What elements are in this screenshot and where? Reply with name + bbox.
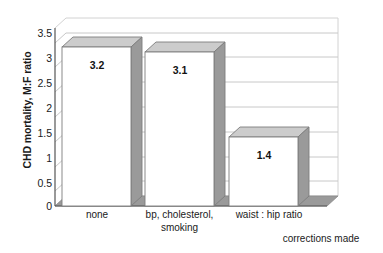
x-axis-title: corrections made bbox=[262, 233, 380, 244]
bar-value-label: 1.4 bbox=[244, 149, 284, 161]
x-category-label-none: none bbox=[57, 209, 137, 222]
x-category-label-bp: bp, cholesterol, smoking bbox=[131, 209, 228, 234]
bar-chart: CHD mortality, M:F ratio 3.5 3 2.5 2 1.5… bbox=[0, 0, 383, 253]
bar-column-3[interactable] bbox=[229, 127, 309, 206]
x-category-label-waisthip: waist : hip ratio bbox=[226, 209, 312, 222]
bar-value-label: 3.2 bbox=[77, 59, 117, 71]
bar-value-label: 3.1 bbox=[160, 64, 200, 76]
